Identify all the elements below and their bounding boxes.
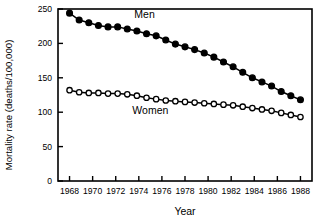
data-point <box>125 92 130 97</box>
x-tick-label: 1974 <box>129 186 148 196</box>
data-point <box>76 17 82 23</box>
data-point <box>221 102 226 107</box>
x-tick-label: 1986 <box>268 186 287 196</box>
data-point <box>269 83 275 89</box>
data-point <box>173 98 178 103</box>
x-tick-label: 1980 <box>199 186 218 196</box>
series-label: Men <box>134 8 155 20</box>
data-point <box>249 75 255 81</box>
data-point <box>230 103 235 108</box>
data-point <box>76 90 81 95</box>
data-point <box>96 90 101 95</box>
y-tick-label: 250 <box>38 4 53 14</box>
data-point <box>86 20 92 26</box>
data-point <box>211 101 216 106</box>
data-point <box>86 90 91 95</box>
chart-figure: 050100150200250 196819701972197419761978… <box>0 0 335 222</box>
data-point <box>115 24 121 30</box>
series-label: Women <box>132 104 168 116</box>
data-point <box>288 93 294 99</box>
x-tick-label: 1988 <box>291 186 310 196</box>
data-point <box>67 10 73 16</box>
y-tick-label: 0 <box>47 176 52 186</box>
data-point <box>288 112 293 117</box>
data-point <box>153 33 159 39</box>
data-point <box>259 107 264 112</box>
data-point <box>250 105 255 110</box>
x-tick-label: 1970 <box>83 186 102 196</box>
series-women <box>67 87 303 119</box>
data-point <box>298 114 303 119</box>
y-tick-label: 50 <box>42 142 52 152</box>
data-point <box>163 37 169 43</box>
x-axis-title: Year <box>174 205 196 217</box>
data-point <box>279 110 284 115</box>
data-point <box>163 98 168 103</box>
data-point <box>134 28 140 34</box>
x-tick-label: 1976 <box>152 186 171 196</box>
data-point <box>240 104 245 109</box>
data-point <box>134 93 139 98</box>
data-point <box>124 26 130 32</box>
data-point <box>192 100 197 105</box>
y-tick-label: 200 <box>38 38 53 48</box>
data-point <box>201 50 207 56</box>
y-axis: 050100150200250 <box>38 4 63 186</box>
x-tick-label: 1968 <box>60 186 79 196</box>
data-point <box>96 23 102 29</box>
y-axis-title: Mortality rate (deaths/100,000) <box>3 40 14 171</box>
data-point <box>211 54 217 60</box>
mortality-rate-line-chart: 050100150200250 196819701972197419761978… <box>0 0 335 222</box>
y-tick-label: 150 <box>38 73 53 83</box>
data-point <box>144 31 150 37</box>
x-axis: 1968197019721974197619781980198219841986… <box>60 176 310 196</box>
data-point <box>105 91 110 96</box>
y-tick-label: 100 <box>38 107 53 117</box>
data-point <box>259 79 265 85</box>
data-point <box>172 41 178 47</box>
data-point <box>202 101 207 106</box>
data-point <box>182 44 188 50</box>
data-point <box>221 59 227 65</box>
data-point <box>182 99 187 104</box>
data-point <box>192 47 198 53</box>
data-point <box>278 89 284 95</box>
x-tick-label: 1984 <box>245 186 264 196</box>
data-point <box>230 64 236 70</box>
data-point <box>269 108 274 113</box>
data-point <box>240 69 246 75</box>
data-point <box>67 87 72 92</box>
series-line <box>70 13 301 100</box>
data-point <box>105 24 111 30</box>
series-men <box>67 10 304 102</box>
data-point <box>153 96 158 101</box>
x-tick-label: 1978 <box>175 186 194 196</box>
data-point <box>144 95 149 100</box>
x-tick-label: 1972 <box>106 186 125 196</box>
data-point <box>298 97 304 103</box>
data-point <box>115 91 120 96</box>
x-tick-label: 1982 <box>222 186 241 196</box>
